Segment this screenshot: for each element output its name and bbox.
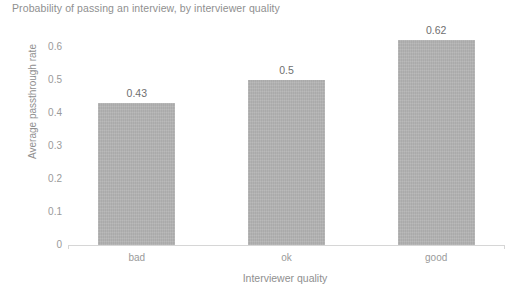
x-axis-tick-label: good <box>398 252 475 263</box>
y-axis-tick-label: 0.6 <box>32 42 62 52</box>
x-axis-line <box>68 245 505 246</box>
bar-chart: Probability of passing an interview, by … <box>0 0 528 298</box>
y-axis-tick-label: 0.5 <box>32 75 62 85</box>
y-axis-tick-labels: 00.10.20.30.40.50.6 <box>32 0 62 298</box>
x-axis-tick-label: ok <box>248 252 325 263</box>
y-axis-tick-label: 0.1 <box>32 207 62 217</box>
y-axis-tick-label: 0.4 <box>32 108 62 118</box>
bar-group: 0.43 <box>98 30 175 245</box>
bar-value-label: 0.62 <box>398 25 475 36</box>
x-axis-tick-right <box>504 245 505 249</box>
x-axis-tick-label: bad <box>98 252 175 263</box>
bar-value-label: 0.5 <box>248 65 325 76</box>
y-axis-tick-label: 0.3 <box>32 141 62 151</box>
x-axis-tick-left <box>68 245 69 249</box>
bar <box>98 103 175 245</box>
bar-value-label: 0.43 <box>98 88 175 99</box>
bar <box>248 80 325 245</box>
y-axis-tick-label: 0 <box>32 240 62 250</box>
bar <box>398 40 475 245</box>
y-axis-tick-label: 0.2 <box>32 174 62 184</box>
bar-group: 0.5 <box>248 30 325 245</box>
bar-group: 0.62 <box>398 30 475 245</box>
plot-area: 0.430.50.62 <box>68 30 505 245</box>
x-axis-title: Interviewer quality <box>0 272 528 284</box>
